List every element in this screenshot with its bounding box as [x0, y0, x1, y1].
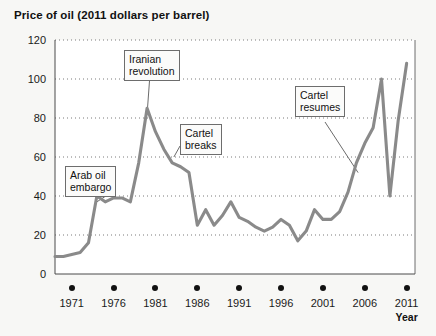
y-tick-label: 100	[0, 73, 46, 85]
x-tick-dot	[152, 285, 158, 291]
y-tick-label: 0	[0, 268, 46, 280]
annotation-cartel-breaks: Cartel breaks	[180, 124, 222, 155]
x-tick-dot	[362, 285, 368, 291]
plot-wrapper: 020406080100120 197119761981198619911996…	[0, 0, 436, 336]
y-tick-label: 20	[0, 229, 46, 241]
annotation-arab-oil-embargo: Arab oil embargo	[65, 166, 116, 197]
x-tick-dot	[69, 285, 75, 291]
annotation-iranian-revolution: Iranian revolution	[124, 50, 180, 81]
x-tick-label: 1976	[101, 297, 125, 309]
x-tick-dot	[111, 285, 117, 291]
x-tick-dot	[404, 285, 410, 291]
x-tick-label: 2011	[395, 297, 419, 309]
y-tick-label: 120	[0, 34, 46, 46]
x-tick-label: 1981	[143, 297, 167, 309]
x-tick-label: 1991	[227, 297, 251, 309]
x-tick-dot	[194, 285, 200, 291]
x-tick-label: 2006	[353, 297, 377, 309]
x-tick-dot	[320, 285, 326, 291]
y-tick-label: 60	[0, 151, 46, 163]
oil-price-chart-figure: Price of oil (2011 dollars per barrel) 0…	[0, 0, 436, 336]
x-tick-dot	[278, 285, 284, 291]
x-tick-label: 2001	[311, 297, 335, 309]
x-tick-label: 1971	[59, 297, 83, 309]
plot-area	[55, 40, 415, 274]
x-axis-title: Year	[396, 311, 418, 323]
x-tick-label: 1996	[269, 297, 293, 309]
x-tick-label: 1986	[185, 297, 209, 309]
annotation-cartel-resumes: Cartel resumes	[295, 86, 345, 117]
y-tick-label: 80	[0, 112, 46, 124]
x-tick-dot	[236, 285, 242, 291]
y-tick-label: 40	[0, 190, 46, 202]
